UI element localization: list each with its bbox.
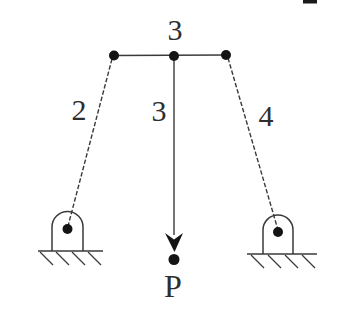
load-arrowhead-icon <box>165 233 183 252</box>
left-member-line <box>68 59 113 228</box>
top-joint-label: 3 <box>168 13 183 46</box>
cropped-print-mark <box>303 0 317 4</box>
left-member-label: 2 <box>72 93 87 126</box>
right-ground-hatching <box>251 255 315 268</box>
right-member-line <box>228 58 278 230</box>
middle-member-label: 3 <box>152 94 167 127</box>
middle-joint-node <box>169 51 179 61</box>
figure-canvas: 3 2 3 4 P <box>0 0 347 309</box>
left-joint-node <box>109 51 119 61</box>
right-joint-node <box>221 50 231 60</box>
load-point-node <box>169 254 180 265</box>
right-member-label: 4 <box>259 99 274 132</box>
right-pinned-support <box>247 215 317 268</box>
left-pinned-support <box>38 212 103 265</box>
load-label: P <box>164 268 182 304</box>
left-support-pin <box>63 224 73 234</box>
truss-diagram: 3 2 3 4 P <box>0 0 347 309</box>
right-support-pin <box>273 227 283 237</box>
left-ground-hatching <box>40 252 101 265</box>
